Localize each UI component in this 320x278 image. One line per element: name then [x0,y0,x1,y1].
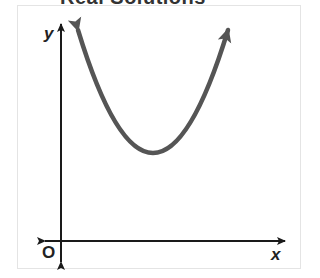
x-axis-label: x [271,245,280,265]
origin-label: O [42,243,55,263]
y-axis-label: y [44,24,53,44]
parabola-curve [78,30,228,153]
